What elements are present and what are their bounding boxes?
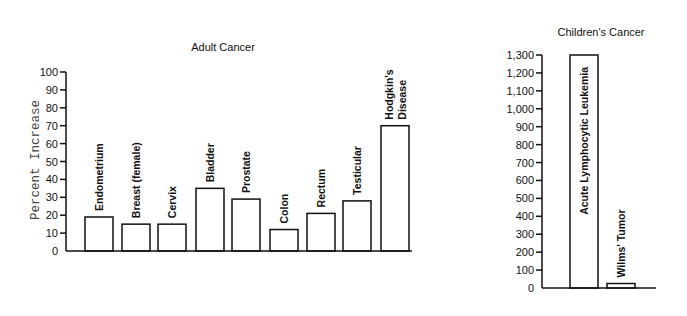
bar-rect [343, 201, 371, 251]
children-chart-title: Children's Cancer [557, 26, 644, 38]
y-tick-label: 80 [46, 102, 58, 114]
adult-cancer-chart: Adult Cancer Percent Increase 0102030405… [29, 41, 412, 257]
adult-y-axis: 0102030405060708090100 [40, 66, 66, 257]
bar-label: Prostate [240, 151, 252, 193]
y-tick-label: 200 [516, 246, 534, 258]
bar-prostate: Prostate [232, 151, 260, 251]
bar-label: Testicular [351, 146, 363, 195]
bar-label: Colon [278, 194, 290, 224]
y-tick-label: 400 [516, 210, 534, 222]
y-tick-label: 70 [46, 120, 58, 132]
bar-label: Endometrium [93, 143, 105, 211]
bar-label: Wilms' Tumor [615, 209, 627, 277]
y-tick-label: 300 [516, 228, 534, 240]
bar-label: Bladder [204, 143, 216, 182]
bar-label: Disease [396, 80, 408, 120]
y-tick-label: 30 [46, 191, 58, 203]
bar-rect [122, 224, 150, 251]
y-tick-label: 20 [46, 209, 58, 221]
y-tick-label: 800 [516, 139, 534, 151]
bar-label: Breast (female) [130, 142, 142, 218]
bar-rect [196, 188, 224, 251]
y-tick-label: 50 [46, 156, 58, 168]
bar-hodgkin-s-disease: Hodgkin'sDisease [381, 69, 409, 251]
y-tick-label: 1,200 [506, 67, 534, 79]
y-tick-label: 0 [52, 245, 58, 257]
bar-rect [270, 230, 298, 251]
bar-rectum: Rectum [307, 169, 335, 251]
bar-label: Cervix [166, 186, 178, 218]
y-tick-label: 900 [516, 121, 534, 133]
bar-wilms-tumor: Wilms' Tumor [607, 209, 635, 288]
y-tick-label: 500 [516, 192, 534, 204]
bar-bladder: Bladder [196, 143, 224, 251]
bar-testicular: Testicular [343, 146, 371, 251]
bar-rect [85, 217, 113, 251]
chart-figure: Adult Cancer Percent Increase 0102030405… [0, 0, 687, 316]
bar-breast-female: Breast (female) [122, 142, 150, 251]
y-tick-label: 90 [46, 84, 58, 96]
y-tick-label: 100 [40, 66, 58, 78]
y-tick-label: 1,000 [506, 103, 534, 115]
bar-rect [307, 213, 335, 251]
adult-bars: EndometriumBreast (female)CervixBladderP… [85, 69, 409, 251]
y-tick-label: 0 [528, 282, 534, 294]
children-bars: Acute Lymphocytic LeukemiaWilms' Tumor [570, 55, 635, 288]
children-cancer-chart: Children's Cancer 0100200300400500600700… [506, 26, 656, 294]
y-tick-label: 1,300 [506, 49, 534, 61]
bar-endometrium: Endometrium [85, 143, 113, 251]
children-y-axis: 01002003004005006007008009001,0001,1001,… [506, 49, 542, 294]
y-tick-label: 60 [46, 138, 58, 150]
y-tick-label: 700 [516, 157, 534, 169]
y-tick-label: 40 [46, 173, 58, 185]
bar-rect [381, 126, 409, 251]
bar-label: Hodgkin's [383, 69, 395, 119]
bar-cervix: Cervix [158, 186, 186, 251]
bar-rect [158, 224, 186, 251]
bar-label: Rectum [315, 169, 327, 208]
bar-acute-lymphocytic-leukemia: Acute Lymphocytic Leukemia [570, 55, 598, 288]
y-tick-label: 1,100 [506, 85, 534, 97]
y-tick-label: 10 [46, 227, 58, 239]
bar-label: Acute Lymphocytic Leukemia [578, 67, 590, 215]
bar-colon: Colon [270, 194, 298, 251]
y-tick-label: 100 [516, 264, 534, 276]
adult-chart-title: Adult Cancer [191, 41, 255, 53]
bar-rect [232, 199, 260, 251]
y-tick-label: 600 [516, 174, 534, 186]
adult-y-axis-label: Percent Increase [29, 100, 43, 220]
